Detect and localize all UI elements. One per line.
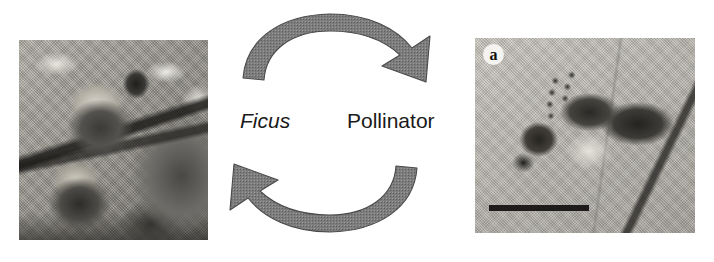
panel-letter-badge: a xyxy=(483,44,504,65)
cycle-label-ficus: Ficus xyxy=(240,109,290,133)
ficus-figs-photograph xyxy=(19,40,208,240)
top-arrow-shape xyxy=(243,14,430,82)
figure-root: Ficus Pollinator a xyxy=(0,0,714,262)
pollinator-wasp-photograph: a xyxy=(475,38,695,233)
mutualism-cycle-diagram: Ficus Pollinator xyxy=(216,10,444,236)
bottom-arrow-shape xyxy=(230,164,417,232)
scale-bar xyxy=(489,205,589,211)
cycle-label-pollinator: Pollinator xyxy=(347,109,435,133)
